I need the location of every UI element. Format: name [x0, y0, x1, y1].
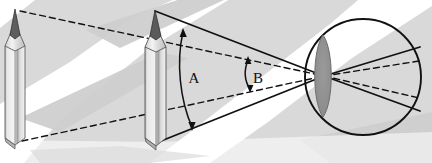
pencil-near-body — [145, 47, 166, 146]
angle-b-label: B — [253, 70, 263, 86]
figure-canvas: A B — [0, 0, 432, 163]
angle-a-label: A — [189, 70, 200, 86]
eye-lens — [315, 35, 332, 117]
background-layer — [0, 0, 432, 163]
ray-diagram-svg: A B — [0, 0, 432, 163]
